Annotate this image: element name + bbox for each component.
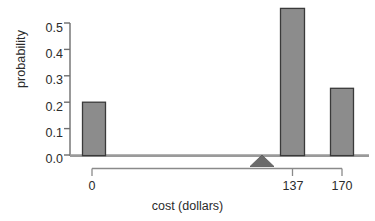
x-axis-title: cost (dollars) bbox=[0, 199, 375, 213]
x-tick-label-170: 170 bbox=[332, 180, 353, 193]
bar-series bbox=[83, 8, 354, 155]
x-tick-label-137: 137 bbox=[283, 180, 304, 193]
plot-area bbox=[0, 0, 375, 221]
bar-0 bbox=[83, 102, 106, 155]
probability-bar-chart: probability 0.5 0.4 0.3 0.2 0.1 0.0 bbox=[0, 0, 375, 221]
bar-170 bbox=[331, 88, 354, 155]
y-axis-spine bbox=[64, 23, 70, 156]
x-tick-label-0: 0 bbox=[89, 180, 96, 193]
bar-137 bbox=[281, 8, 305, 155]
x-scale-bracket bbox=[92, 169, 342, 177]
